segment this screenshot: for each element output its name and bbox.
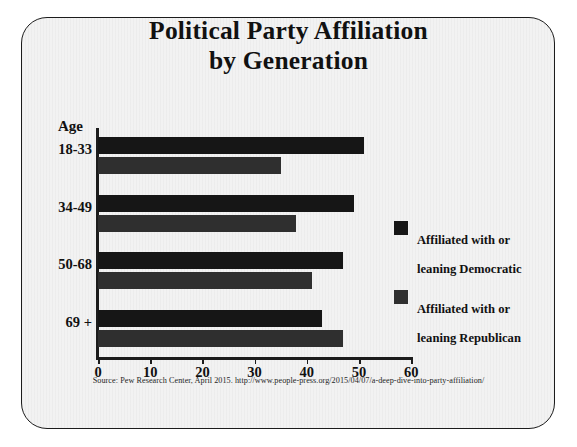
x-tick-40 [307,357,309,364]
category-label-2: 50-68 [4,256,92,273]
legend-label-democratic-line-1: Affiliated with or [417,233,510,247]
x-tick-30 [255,357,257,364]
category-label-0: 18-33 [4,141,92,158]
figure-page: Political Party Affiliation by Generatio… [0,0,577,447]
legend-label-republican-line-1: Affiliated with or [417,302,510,316]
bar-69-democratic [98,310,322,327]
chart-title-line-2: by Generation [0,46,577,76]
bar-69-republican [98,330,343,347]
legend-item-democratic: Affiliated with or leaning Democratic [394,218,522,276]
chart-title: Political Party Affiliation by Generatio… [0,16,577,76]
plot-area: 0102030405060 [98,131,398,357]
chart-title-line-1: Political Party Affiliation [149,16,428,45]
x-tick-50 [359,357,361,364]
legend-label-republican: Affiliated with or leaning Republican [417,287,521,345]
category-label-1: 34-49 [4,199,92,216]
bar-1833-democratic [98,137,364,154]
legend-label-republican-line-2: leaning Republican [417,331,521,345]
legend: Affiliated with or leaning Democratic Af… [394,218,522,356]
bar-1833-republican [98,157,281,174]
legend-swatch-republican-icon [394,290,408,304]
source-note: Source: Pew Research Center, April 2015.… [0,376,577,385]
category-label-3: 69 + [4,314,92,331]
bar-3449-democratic [98,195,354,212]
bar-3449-republican [98,215,296,232]
category-axis-header: Age [58,118,83,135]
x-tick-20 [202,357,204,364]
legend-swatch-democratic-icon [394,221,408,235]
legend-item-republican: Affiliated with or leaning Republican [394,287,522,345]
x-tick-10 [150,357,152,364]
x-tick-0 [98,357,100,364]
legend-label-democratic-line-2: leaning Democratic [417,262,522,276]
bar-5068-democratic [98,252,343,269]
x-tick-60 [411,357,413,364]
bar-5068-republican [98,272,312,289]
legend-label-democratic: Affiliated with or leaning Democratic [417,218,522,276]
